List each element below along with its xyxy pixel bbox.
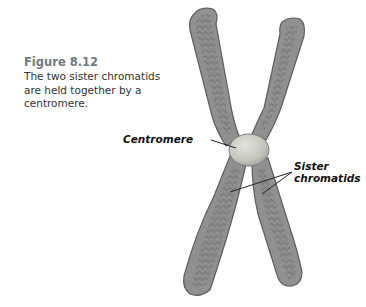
sister-chromatids-label: Sister chromatids	[294, 160, 361, 184]
chromatid-arm-upper-right	[252, 18, 305, 140]
sister-label-line-2: chromatids	[294, 172, 361, 184]
sister-label-line-1: Sister	[294, 160, 361, 172]
chromosome-illustration	[0, 0, 366, 307]
chromatid-arm-lower-left	[184, 156, 246, 295]
centromere	[229, 134, 269, 166]
centromere-label: Centromere	[123, 133, 193, 145]
chromatid-arm-upper-left	[190, 8, 241, 146]
